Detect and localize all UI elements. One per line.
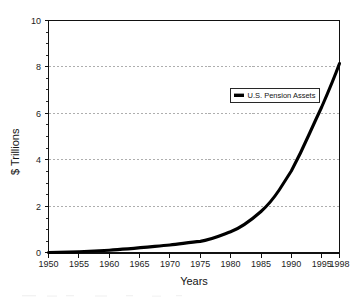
x-tick-label: 1970 <box>160 259 180 269</box>
legend[interactable]: U.S. Pension Assets <box>231 89 320 103</box>
x-axis-title: Years <box>180 275 208 287</box>
y-axis-title: $ Trillions <box>9 128 21 175</box>
x-tick-label: 1998 <box>329 259 349 269</box>
x-tick-label: 1985 <box>251 259 271 269</box>
x-tick-label: 1955 <box>69 259 89 269</box>
chart-figure: 10 8 6 4 2 0 1950 1955 1960 1965 1970 19… <box>0 0 362 301</box>
x-tick-label: 1950 <box>38 259 58 269</box>
x-tick-label: 1960 <box>99 259 119 269</box>
y-tick-label: 2 <box>36 202 41 212</box>
x-tick-label: 1965 <box>130 259 150 269</box>
legend-label: U.S. Pension Assets <box>248 91 316 100</box>
line-chart: 10 8 6 4 2 0 1950 1955 1960 1965 1970 19… <box>0 0 362 301</box>
x-tick-label: 1990 <box>281 259 301 269</box>
y-tick-label: 6 <box>36 109 41 119</box>
chart-background <box>0 0 362 301</box>
y-tick-label: 8 <box>36 62 41 72</box>
y-tick-label: 10 <box>31 16 41 26</box>
y-tick-label: 0 <box>36 248 41 258</box>
y-tick-label: 4 <box>36 155 41 165</box>
x-tick-label: 1980 <box>221 259 241 269</box>
x-tick-label: 1975 <box>190 259 210 269</box>
